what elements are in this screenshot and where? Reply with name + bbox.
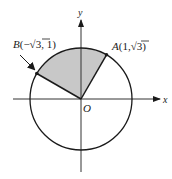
unit-circle-diagram: y x O A(1,√3) B(−√3, 1) xyxy=(0,0,172,179)
point-A-label: A(1,√3) xyxy=(111,40,146,53)
point-A-coords: (1,√3) xyxy=(119,40,146,53)
pointer-arrow-icon xyxy=(20,55,34,69)
x-axis-label: x xyxy=(162,94,168,105)
point-A-marker xyxy=(105,53,109,57)
y-axis-label: y xyxy=(77,7,83,18)
origin-label: O xyxy=(83,102,91,114)
point-B-label: B(−√3, 1) xyxy=(13,38,56,51)
point-B-coords: (−√3, 1) xyxy=(20,38,56,51)
point-B-marker xyxy=(35,72,39,76)
